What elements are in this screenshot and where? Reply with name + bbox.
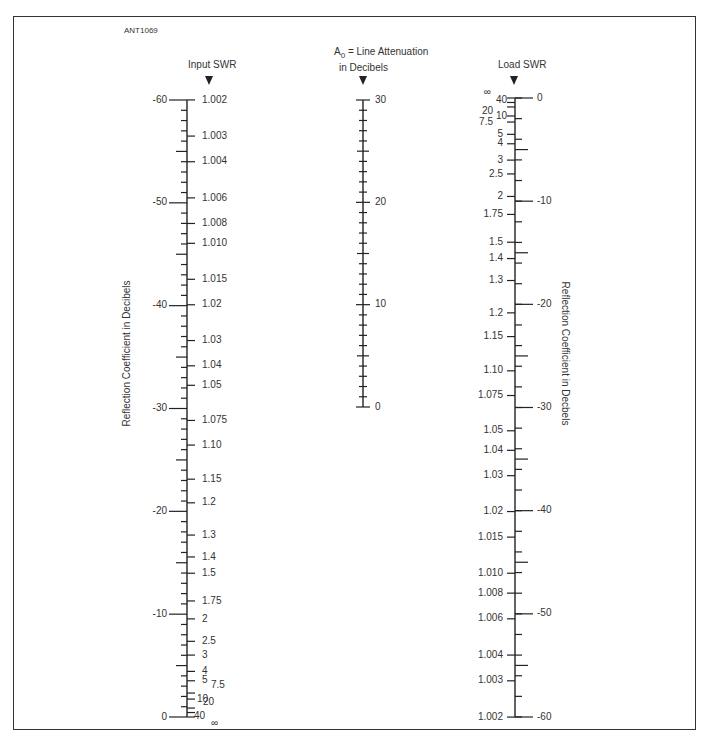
input-swr-label: 1.15 <box>202 473 222 484</box>
input-swr-label: ∞ <box>211 717 218 728</box>
input-swr-label: 7.5 <box>211 679 225 690</box>
load-swr-label: 1.008 <box>478 587 503 598</box>
input-swr-label: 1.075 <box>202 414 227 425</box>
load-db-label: -50 <box>537 607 552 618</box>
input-swr-label: 1.5 <box>202 567 216 578</box>
input-swr-label: 40 <box>194 710 206 721</box>
input-swr-label: 1.006 <box>202 192 227 203</box>
load-swr-label: 1.075 <box>478 389 503 400</box>
load-db-label: -60 <box>537 711 552 722</box>
input-db-label: -10 <box>153 608 168 619</box>
input-swr-label: 1.05 <box>202 379 222 390</box>
load-swr-label: 3 <box>497 154 503 165</box>
input-db-label: 0 <box>161 711 167 722</box>
load-swr-label: 1.015 <box>478 531 503 542</box>
input-swr-label: 1.03 <box>202 334 222 345</box>
load-swr-label: 1.05 <box>484 424 504 435</box>
load-swr-scale: 0-10-20-30-40-50-60∞4020107.55432.521.75… <box>478 86 552 722</box>
attenuation-label: 30 <box>375 94 387 105</box>
input-swr-label: 1.3 <box>202 529 216 540</box>
input-swr-label: 1.004 <box>202 155 227 166</box>
input-swr-label: 1.4 <box>202 551 216 562</box>
load-swr-label: 1.004 <box>478 649 503 660</box>
input-swr-label: 1.008 <box>202 217 227 228</box>
input-swr-label: 1.002 <box>202 94 227 105</box>
input-swr-label: 2 <box>202 613 208 624</box>
input-swr-label: 1.010 <box>202 237 227 248</box>
load-swr-label: 1.4 <box>489 252 503 263</box>
load-swr-label: 1.5 <box>489 236 503 247</box>
attenuation-label: 10 <box>375 298 387 309</box>
load-swr-label: 1.75 <box>484 208 504 219</box>
input-swr-label: 1.75 <box>202 595 222 606</box>
input-swr-label: 1.003 <box>202 130 227 141</box>
load-swr-label: 20 <box>482 105 494 116</box>
load-db-label: -10 <box>537 195 552 206</box>
load-swr-label: 40 <box>496 94 508 105</box>
input-db-label: -60 <box>153 94 168 105</box>
input-db-label: -50 <box>153 196 168 207</box>
load-swr-label: 1.010 <box>478 567 503 578</box>
input-swr-label: 1.10 <box>202 439 222 450</box>
load-db-label: 0 <box>537 92 543 103</box>
load-swr-label: 1.03 <box>484 469 504 480</box>
input-swr-label: 1.02 <box>202 298 222 309</box>
load-swr-label: 10 <box>496 110 508 121</box>
load-swr-label: 1.10 <box>484 364 504 375</box>
attenuation-label: 0 <box>375 401 381 412</box>
load-swr-label: 2.5 <box>489 168 503 179</box>
input-db-label: -20 <box>153 505 168 516</box>
load-swr-label: ∞ <box>484 86 491 97</box>
load-db-label: -40 <box>537 504 552 515</box>
input-swr-label: 1.2 <box>202 496 216 507</box>
load-swr-label: 1.003 <box>478 674 503 685</box>
load-swr-label: 1.02 <box>484 505 504 516</box>
input-swr-label: 3 <box>202 649 208 660</box>
load-swr-label: 1.04 <box>484 444 504 455</box>
input-swr-label: 2.5 <box>202 635 216 646</box>
load-swr-label: 7.5 <box>479 116 493 127</box>
load-db-label: -20 <box>537 298 552 309</box>
load-swr-label: 2 <box>497 190 503 201</box>
input-db-label: -40 <box>153 299 168 310</box>
input-swr-label: 1.04 <box>202 359 222 370</box>
attenuation-scale: 3020100 <box>356 94 387 412</box>
load-swr-label: 1.002 <box>478 711 503 722</box>
input-swr-scale: -60-50-40-30-20-1001.0021.0031.0041.0061… <box>153 94 228 728</box>
input-swr-label: 20 <box>203 696 215 707</box>
load-swr-label: 1.2 <box>489 307 503 318</box>
load-swr-label: 1.3 <box>489 274 503 285</box>
load-db-label: -30 <box>537 401 552 412</box>
nomograph: -60-50-40-30-20-1001.0021.0031.0041.0061… <box>0 0 704 739</box>
load-swr-label: 4 <box>497 137 503 148</box>
attenuation-label: 20 <box>375 196 387 207</box>
load-swr-label: 1.15 <box>484 330 504 341</box>
input-swr-label: 5 <box>202 674 208 685</box>
input-swr-label: 1.015 <box>202 273 227 284</box>
load-swr-label: 1.006 <box>478 612 503 623</box>
input-db-label: -30 <box>153 402 168 413</box>
